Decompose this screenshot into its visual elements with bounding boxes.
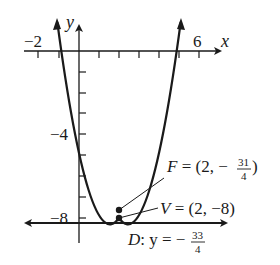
- y-axis-label: y: [64, 12, 74, 32]
- directrix-frac-den: 4: [195, 243, 201, 255]
- focus-name: F: [166, 157, 178, 176]
- focus-leader-line: [119, 178, 164, 210]
- x-axis-label: x: [220, 31, 229, 51]
- y-tick-label-neg8: −8: [50, 209, 68, 228]
- vertex-eq: = (2, −8): [170, 199, 235, 218]
- x-tick-label-6: 6: [193, 32, 202, 51]
- y-axis: −4 −8 y: [50, 12, 86, 243]
- parabola-diagram: −2 6 x −4 −8 y F = (2,: [0, 0, 280, 265]
- focus-frac-den: 4: [241, 170, 247, 182]
- focus-close: ): [252, 157, 258, 176]
- directrix-label: D: y = − 33 4: [127, 229, 205, 255]
- focus-eq: = (2, −: [177, 157, 227, 176]
- curve-arrow-right-icon: [177, 18, 185, 30]
- focus-frac-num: 31: [238, 156, 249, 168]
- y-ticks: [79, 72, 86, 218]
- vertex-label: V = (2, −8): [160, 199, 235, 218]
- x-tick-label-neg2: −2: [24, 32, 42, 51]
- directrix-eq: : y = −: [140, 230, 185, 249]
- x-axis: −2 6 x: [24, 31, 229, 58]
- svg-text:D: y = −: D: y = −: [127, 230, 185, 249]
- y-tick-label-neg4: −4: [50, 125, 69, 144]
- focus-label: F = (2, − 31 4 ): [166, 156, 258, 182]
- directrix-name: D: [127, 230, 141, 249]
- svg-text:F = (2, −: F = (2, −: [166, 157, 228, 176]
- directrix-frac-num: 33: [192, 229, 204, 241]
- curve-arrow-left-icon: [53, 18, 61, 30]
